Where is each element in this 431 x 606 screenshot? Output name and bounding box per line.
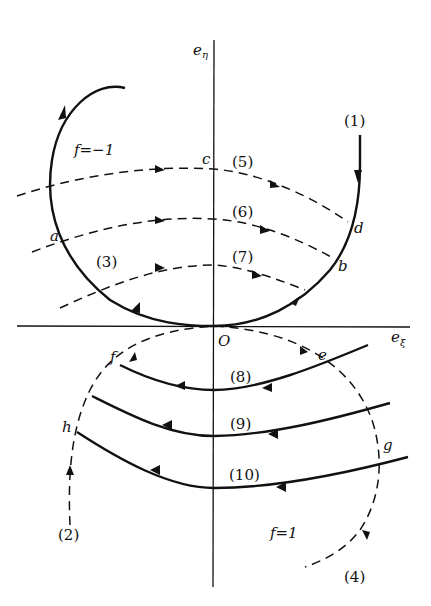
trajectory-label-5: (5)	[232, 153, 253, 171]
trajectory-label-6: (6)	[232, 203, 253, 221]
region-label-f-neg: f=−1	[73, 141, 114, 159]
trajectory-label-3: (3)	[96, 253, 117, 271]
trajectory-label-8: (8)	[230, 368, 251, 386]
trajectory-label-4: (4)	[344, 568, 365, 586]
point-h: h	[62, 418, 72, 436]
e-xi-label: eξ	[391, 328, 406, 348]
phase-plane-diagram: eη eξ O f=−1 f=1 a b c d e f g h (1) (2)…	[0, 0, 431, 606]
point-c: c	[202, 150, 211, 168]
trajectory-5	[17, 168, 348, 222]
point-e: e	[318, 346, 327, 364]
trajectory-7	[60, 265, 305, 308]
origin-label: O	[218, 332, 230, 350]
trajectory-label-2: (2)	[58, 526, 79, 544]
switching-curve-lower	[69, 326, 379, 567]
trajectory-label-9: (9)	[230, 415, 251, 433]
e-eta-label: eη	[193, 41, 208, 60]
trajectory-label-7: (7)	[232, 248, 253, 266]
vertical-axis	[213, 40, 214, 587]
region-label-f-pos: f=1	[269, 524, 298, 542]
point-g: g	[383, 436, 393, 454]
point-d: d	[354, 219, 364, 237]
switching-curve-upper	[50, 87, 360, 326]
point-b: b	[338, 257, 348, 275]
point-a: a	[50, 227, 59, 245]
trajectory-label-10: (10)	[229, 466, 260, 484]
trajectory-label-1: (1)	[344, 112, 365, 130]
trajectory-6	[32, 218, 333, 258]
